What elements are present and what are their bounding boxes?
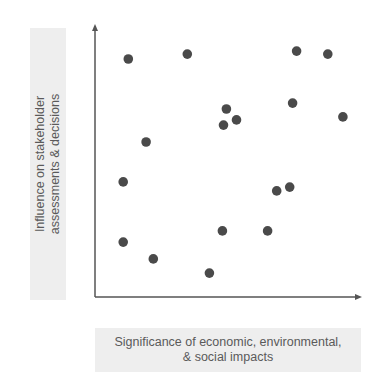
x-axis-arrow-icon <box>355 294 362 300</box>
data-point <box>263 226 273 236</box>
x-axis-label-box: Significance of economic, environmental,… <box>95 328 361 372</box>
data-point <box>292 46 302 56</box>
data-points <box>118 46 347 278</box>
data-point <box>232 115 242 125</box>
data-point <box>218 226 228 236</box>
data-point <box>288 98 298 108</box>
data-point <box>222 104 232 114</box>
data-point <box>285 182 295 192</box>
data-point <box>118 177 128 187</box>
data-point <box>124 54 134 64</box>
data-point <box>205 268 215 278</box>
axes <box>92 24 362 300</box>
x-axis-label: Significance of economic, environmental,… <box>114 335 341 365</box>
x-axis-label-line-2: & social impacts <box>114 350 341 365</box>
data-point <box>118 237 128 247</box>
data-point <box>323 49 333 59</box>
data-point <box>149 254 159 264</box>
data-point <box>183 49 193 59</box>
data-point <box>272 186 282 196</box>
y-axis-arrow-icon <box>92 24 98 31</box>
data-point <box>338 112 348 122</box>
data-point <box>219 120 229 130</box>
x-axis-label-line-1: Significance of economic, environmental, <box>114 335 341 350</box>
data-point <box>141 137 151 147</box>
